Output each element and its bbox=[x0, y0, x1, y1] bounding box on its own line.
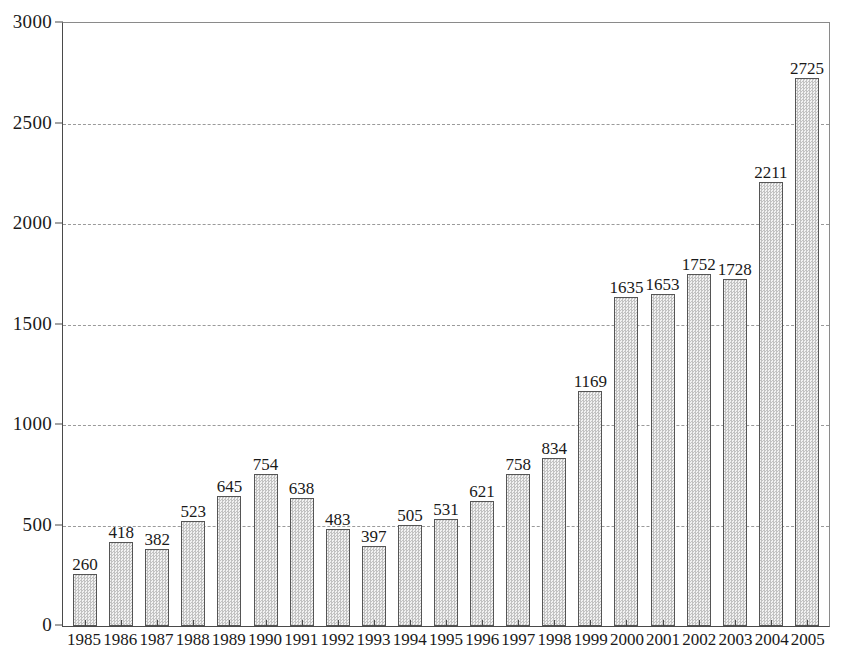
x-tick-label-2000: 2000 bbox=[609, 630, 645, 650]
bar-value-label-2001: 1653 bbox=[646, 276, 680, 293]
bar-slot-2005: 2725 bbox=[789, 23, 825, 626]
bar-value-label-1987: 382 bbox=[144, 531, 170, 548]
x-tick-mark bbox=[157, 620, 158, 627]
bar-value-label-1985: 260 bbox=[72, 556, 98, 573]
bar-slot-1996: 621 bbox=[464, 23, 500, 626]
x-tick-mark bbox=[518, 620, 519, 627]
x-tick-mark bbox=[121, 620, 122, 627]
x-tick-label-2002: 2002 bbox=[681, 630, 717, 650]
bar-1998[interactable]: 834 bbox=[542, 458, 566, 626]
bar-slot-1985: 260 bbox=[67, 23, 103, 626]
bar-value-label-1998: 834 bbox=[542, 440, 568, 457]
x-tick-label-1993: 1993 bbox=[356, 630, 392, 650]
x-tick-label-1999: 1999 bbox=[573, 630, 609, 650]
y-tick-label-2000: 2000 bbox=[13, 212, 52, 234]
bar-1996[interactable]: 621 bbox=[470, 501, 494, 626]
x-tick-label-1987: 1987 bbox=[138, 630, 174, 650]
bar-slot-1998: 834 bbox=[536, 23, 572, 626]
bar-value-label-2000: 1635 bbox=[609, 279, 643, 296]
bar-value-label-1996: 621 bbox=[469, 483, 495, 500]
bar-slot-1988: 523 bbox=[175, 23, 211, 626]
x-tick-mark bbox=[554, 620, 555, 627]
bar-1991[interactable]: 638 bbox=[290, 498, 314, 626]
x-tick-label-1991: 1991 bbox=[283, 630, 319, 650]
y-tick-label-0: 0 bbox=[42, 614, 52, 636]
bar-2003[interactable]: 1728 bbox=[723, 279, 747, 626]
bar-2000[interactable]: 1635 bbox=[614, 297, 638, 626]
bar-value-label-1990: 754 bbox=[253, 456, 279, 473]
bar-value-label-2003: 1728 bbox=[718, 261, 752, 278]
y-axis: 050010001500200025003000 bbox=[0, 0, 62, 659]
bar-value-label-2002: 1752 bbox=[682, 256, 716, 273]
bar-value-label-1999: 1169 bbox=[574, 373, 607, 390]
bar-slot-2001: 1653 bbox=[645, 23, 681, 626]
bar-value-label-1986: 418 bbox=[108, 524, 134, 541]
y-tick-label-2500: 2500 bbox=[13, 112, 52, 134]
bar-2004[interactable]: 2211 bbox=[759, 182, 783, 626]
bar-slot-1997: 758 bbox=[500, 23, 536, 626]
bar-slot-1992: 483 bbox=[320, 23, 356, 626]
x-tick-label-1994: 1994 bbox=[392, 630, 428, 650]
x-tick-mark bbox=[266, 620, 267, 627]
bar-1993[interactable]: 397 bbox=[362, 546, 386, 626]
x-tick-mark bbox=[482, 620, 483, 627]
bar-value-label-1997: 758 bbox=[505, 456, 531, 473]
bar-1997[interactable]: 758 bbox=[506, 474, 530, 626]
x-tick-label-2003: 2003 bbox=[717, 630, 753, 650]
x-tick-label-1985: 1985 bbox=[66, 630, 102, 650]
x-tick-mark bbox=[626, 620, 627, 627]
x-tick-mark bbox=[771, 620, 772, 627]
bar-slot-1993: 397 bbox=[356, 23, 392, 626]
x-tick-label-1988: 1988 bbox=[175, 630, 211, 650]
x-tick-mark bbox=[735, 620, 736, 627]
bar-1990[interactable]: 754 bbox=[254, 474, 278, 626]
bar-1989[interactable]: 645 bbox=[217, 496, 241, 626]
bar-1992[interactable]: 483 bbox=[326, 529, 350, 626]
x-tick-label-1996: 1996 bbox=[464, 630, 500, 650]
bar-slot-1991: 638 bbox=[284, 23, 320, 626]
x-tick-mark bbox=[374, 620, 375, 627]
x-tick-label-1989: 1989 bbox=[211, 630, 247, 650]
bar-slot-1994: 505 bbox=[392, 23, 428, 626]
y-tick-label-1000: 1000 bbox=[13, 413, 52, 435]
x-tick-mark bbox=[807, 620, 808, 627]
bar-1987[interactable]: 382 bbox=[145, 549, 169, 626]
bar-1999[interactable]: 1169 bbox=[578, 391, 602, 626]
bar-1994[interactable]: 505 bbox=[398, 525, 422, 627]
bar-slot-1987: 382 bbox=[139, 23, 175, 626]
x-tick-mark bbox=[338, 620, 339, 627]
bar-slot-2000: 1635 bbox=[608, 23, 644, 626]
bar-slot-1986: 418 bbox=[103, 23, 139, 626]
plot-area: 2604183825236457546384833975055316217588… bbox=[62, 22, 830, 627]
bar-value-label-1995: 531 bbox=[433, 501, 459, 518]
bar-slot-2004: 2211 bbox=[753, 23, 789, 626]
x-tick-mark bbox=[302, 620, 303, 627]
bar-slot-1999: 1169 bbox=[572, 23, 608, 626]
bar-slot-2003: 1728 bbox=[717, 23, 753, 626]
bar-value-label-1992: 483 bbox=[325, 511, 351, 528]
bar-slot-1995: 531 bbox=[428, 23, 464, 626]
bar-1995[interactable]: 531 bbox=[434, 519, 458, 626]
bar-1985[interactable]: 260 bbox=[73, 574, 97, 626]
y-tick-label-500: 500 bbox=[23, 514, 52, 536]
bar-1988[interactable]: 523 bbox=[181, 521, 205, 626]
bar-slot-2002: 1752 bbox=[681, 23, 717, 626]
bar-1986[interactable]: 418 bbox=[109, 542, 133, 626]
bar-2001[interactable]: 1653 bbox=[651, 294, 675, 626]
x-tick-mark bbox=[193, 620, 194, 627]
x-tick-mark bbox=[699, 620, 700, 627]
bar-value-label-1994: 505 bbox=[397, 507, 423, 524]
bars-layer: 2604183825236457546384833975055316217588… bbox=[63, 23, 829, 626]
bar-2005[interactable]: 2725 bbox=[795, 78, 819, 626]
bar-value-label-1993: 397 bbox=[361, 528, 387, 545]
x-tick-mark bbox=[446, 620, 447, 627]
x-tick-mark bbox=[663, 620, 664, 627]
bar-2002[interactable]: 1752 bbox=[687, 274, 711, 626]
y-tick-label-1500: 1500 bbox=[13, 313, 52, 335]
x-tick-label-1995: 1995 bbox=[428, 630, 464, 650]
x-tick-label-1997: 1997 bbox=[500, 630, 536, 650]
x-tick-label-1998: 1998 bbox=[536, 630, 572, 650]
bar-value-label-2005: 2725 bbox=[790, 60, 824, 77]
bar-slot-1989: 645 bbox=[211, 23, 247, 626]
x-tick-mark bbox=[85, 620, 86, 627]
